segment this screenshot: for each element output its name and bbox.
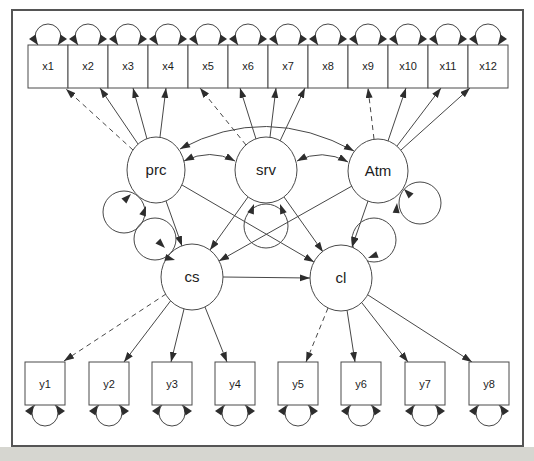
indicator-x11-label: x11 [440,60,457,72]
indicator-x6-label: x6 [242,60,254,72]
indicator-y3-box [152,362,192,426]
indicator-y2-label: y2 [103,378,115,390]
indicator-y2-box [89,362,129,426]
path-prc-to-cs [166,201,182,246]
loading-srv-x6 [240,88,256,139]
latent-cs-label: cs [185,268,200,285]
atm-variance-loop [399,182,441,224]
page-background-strip [0,447,534,461]
loading-cs-y4 [205,307,227,362]
indicator-y4-box [215,362,255,426]
loading-atm-x10 [388,88,406,141]
indicator-y3-label: y3 [166,378,178,390]
indicator-y6-label: y6 [355,378,367,390]
loading-atm-x11 [397,88,441,146]
loading-prc-x1-dashed [66,89,133,150]
indicator-x11-box [428,24,468,88]
indicator-y1-box [25,362,65,426]
path-cs-to-cl [223,277,310,278]
indicator-x2-box [68,24,108,88]
loading-srv-x8 [280,88,305,141]
indicator-x1-label: x1 [42,60,54,72]
loading-cl-y8 [368,295,472,362]
latent-prc-label: prc [146,161,167,178]
loading-atm-x12 [401,88,470,150]
indicator-y8-box [469,362,509,426]
indicator-x5-label: x5 [202,60,214,72]
indicator-x5-box [188,24,228,88]
latent-atm-label: Atm [365,162,392,179]
latent-srv-label: srv [256,161,276,178]
loading-srv-x7 [270,88,276,137]
loading-cl-y5-dashed [306,308,328,362]
indicator-x7-box [268,24,308,88]
arrowhead-icon [155,238,167,250]
indicator-x4-box [148,24,188,88]
covariance-srv-atm [297,155,348,162]
arrowhead-icon [121,192,133,204]
indicator-x1-box [28,24,68,88]
loading-prc-x3 [133,88,147,139]
indicator-x3-label: x3 [122,60,134,72]
edges-layer [64,88,472,362]
prc-variance-loop [103,191,145,233]
indicator-x12-label: x12 [479,60,497,72]
loading-cl-y7 [362,303,408,362]
indicator-y4-label: y4 [229,378,241,390]
loading-cs-y2 [124,299,172,362]
indicator-y5-label: y5 [292,378,304,390]
arrowhead-icon [367,251,379,261]
latent-cl-label: cl [336,269,347,286]
loading-atm-x9-dashed [368,88,374,139]
indicator-x8-box [308,24,348,88]
loading-prc-x2 [100,88,138,144]
sem-path-diagram: x1 x2 x3 x4 x5 x6 x7 x8 x9 x10 x11 x12 y… [0,0,534,461]
indicator-x3-box [108,24,148,88]
indicator-y6-box [341,362,381,426]
x-indicator-row [28,24,508,88]
indicator-x8-label: x8 [322,60,334,72]
indicator-x9-label: x9 [362,60,374,72]
loading-prc-x4 [160,88,166,137]
covariance-prc-srv [184,155,235,162]
indicator-x4-label: x4 [162,60,174,72]
indicator-x6-box [228,24,268,88]
y-indicator-row [25,362,509,426]
indicator-y5-box [278,362,318,426]
indicator-y7-label: y7 [419,378,431,390]
indicator-x9-box [348,24,388,88]
indicator-x12-box [468,24,508,88]
diagram-canvas: x1 x2 x3 x4 x5 x6 x7 x8 x9 x10 x11 x12 y… [0,0,534,461]
indicator-y8-label: y8 [483,378,495,390]
indicator-x7-label: x7 [282,60,294,72]
arrowhead-icon [277,203,287,215]
indicator-x10-label: x10 [399,60,417,72]
indicator-y1-label: y1 [39,378,51,390]
loading-cl-y6 [347,310,355,362]
indicator-y7-box [405,362,445,426]
indicator-x2-label: x2 [82,60,94,72]
indicator-x10-box [388,24,428,88]
loading-cs-y3 [171,309,184,362]
